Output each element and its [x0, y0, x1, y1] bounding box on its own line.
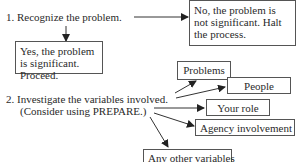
- arrow-to-problems: [175, 81, 196, 93]
- variable-box-any-other: Any other variables: [143, 149, 232, 162]
- arrow-to-agency: [154, 113, 194, 126]
- variable-box-agency-involvement: Agency involvement: [195, 119, 295, 136]
- step2-label: 2. Investigate the variables involved.: [6, 93, 168, 105]
- variable-box-problems: Problems: [177, 61, 231, 80]
- variable-box-your-role: Your role: [206, 99, 270, 116]
- step1-label: 1. Recognize the problem.: [6, 11, 122, 23]
- variable-box-people: People: [227, 77, 291, 94]
- yes-outcome-box: Yes, the problem is significant. Proceed…: [15, 41, 103, 74]
- no-outcome-box: No, the problem is not significant. Halt…: [189, 0, 296, 46]
- step2-sublabel: (Consider using PREPARE.): [20, 105, 146, 117]
- arrow-to-other: [150, 117, 168, 147]
